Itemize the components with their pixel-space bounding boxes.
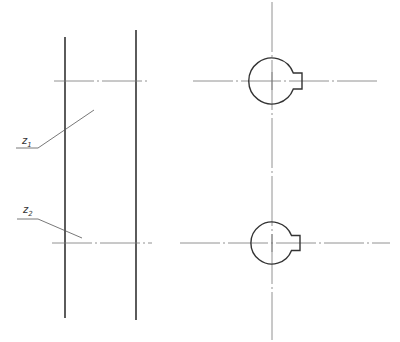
technical-drawing: z1 z2 bbox=[0, 0, 400, 342]
label-z1: z1 bbox=[21, 135, 32, 149]
leader-z2 bbox=[17, 219, 82, 238]
label-z2: z2 bbox=[22, 204, 33, 218]
